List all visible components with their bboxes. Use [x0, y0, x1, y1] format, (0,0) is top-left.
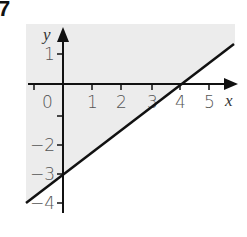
chart: 0 1 2 3 4 5 1 −2 −3 −4 y x [0, 0, 247, 237]
y-tick-label-neg3: −3 [30, 164, 55, 184]
x-tick-label-0: 0 [42, 92, 53, 112]
x-axis-arrow-icon [224, 78, 238, 90]
x-tick-label-5: 5 [204, 92, 215, 112]
y-tick-label-1: 1 [44, 44, 55, 64]
x-tick-label-4: 4 [175, 92, 186, 112]
x-axis-label: x [224, 91, 233, 110]
shaded-region [26, 24, 235, 203]
x-tick-label-2: 2 [116, 92, 127, 112]
y-tick-label-neg2: −2 [30, 135, 55, 155]
y-axis-label: y [41, 25, 51, 44]
x-tick-label-1: 1 [87, 92, 98, 112]
